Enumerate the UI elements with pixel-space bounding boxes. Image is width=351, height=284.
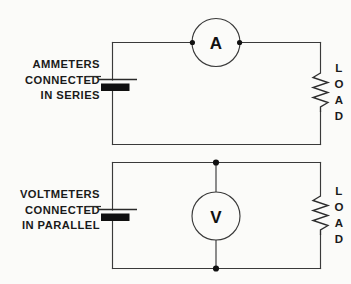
ammeter-load-letter-1: L [335, 62, 342, 74]
ammeter-load-letter-3: A [335, 94, 344, 106]
voltmeter-junction-dot-bottom [213, 265, 219, 271]
voltmeter-circuit-group: V L O A D [86, 159, 344, 271]
voltmeter-load-label: L O A D [334, 185, 343, 245]
voltmeter-symbol-letter: V [210, 208, 222, 227]
voltmeter-junction-dot-top [213, 159, 219, 165]
circuit-diagram-figure: AMMETERS CONNECTED IN SERIES VOLTMETERS … [0, 0, 351, 284]
voltmeter-load-resistor-icon [313, 196, 328, 235]
voltmeter-load-letter-4: D [335, 233, 344, 245]
battery-negative-plate [101, 214, 130, 222]
ammeter-circuit-group: A L O A D [86, 19, 344, 145]
ammeter-battery-symbol [98, 80, 137, 92]
ammeter-terminal-dot-right [237, 40, 242, 45]
voltmeter-load-letter-1: L [335, 185, 342, 197]
ammeter-load-letter-2: O [334, 78, 343, 90]
battery-negative-plate [101, 84, 130, 92]
ammeter-symbol-letter: A [210, 34, 222, 53]
ammeter-load-resistor-icon [313, 73, 328, 112]
circuit-schematic-svg: A L O A D [0, 0, 351, 284]
ammeter-terminal-dot-left [190, 40, 195, 45]
voltmeter-load-letter-3: A [335, 217, 344, 229]
ammeter-load-letter-4: D [335, 110, 344, 122]
voltmeter-battery-symbol [98, 210, 137, 222]
voltmeter-load-letter-2: O [334, 201, 343, 213]
ammeter-load-label: L O A D [334, 62, 343, 122]
